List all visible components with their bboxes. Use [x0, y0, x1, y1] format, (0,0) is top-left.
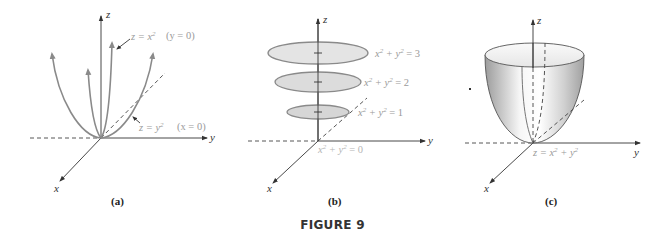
- x-axis-label: x: [267, 183, 272, 194]
- rhs: = 1: [387, 107, 403, 118]
- equation-z-x2: z = x2: [131, 31, 156, 43]
- caption-b: (b): [328, 196, 341, 207]
- rhs: = 0: [347, 144, 363, 155]
- figure-title: FIGURE 9: [0, 218, 665, 232]
- stray-dot: [469, 88, 471, 90]
- condition-y0: (y = 0): [166, 31, 195, 42]
- term-y: + y: [326, 144, 343, 155]
- term-y: + y: [372, 77, 389, 88]
- exp: 2: [575, 146, 579, 154]
- surface-equation: z = x2 + y2: [533, 147, 578, 159]
- z-axis-label: z: [537, 15, 541, 26]
- x-axis: [273, 141, 318, 183]
- level-label-3: x2 + y2 = 3: [375, 48, 420, 60]
- y-axis-label: y: [634, 147, 639, 158]
- z-axis-label: z: [323, 14, 327, 25]
- level-label-1: x2 + y2 = 1: [358, 107, 403, 119]
- x-axis: [60, 138, 101, 181]
- x-axis-label: x: [54, 183, 59, 194]
- term-y: + y: [383, 48, 400, 59]
- pointer-arrow-zx2: [117, 39, 130, 49]
- term-z-x: z = x: [533, 147, 554, 158]
- paraboloid-surface: [485, 55, 584, 143]
- parabola-inner-right: [101, 43, 112, 138]
- caption-a: (a): [111, 196, 124, 207]
- term-y: + y: [558, 147, 575, 158]
- panel-c: [465, 20, 640, 183]
- parabola-outer-left: [52, 54, 101, 138]
- level-label-2: x2 + y2 = 2: [364, 77, 409, 89]
- equation-text: z = x: [131, 31, 152, 42]
- rhs: = 2: [393, 77, 409, 88]
- y-axis-label: y: [428, 135, 433, 146]
- panel-b: [248, 19, 425, 183]
- x-axis-label: x: [484, 183, 489, 194]
- level-label-0: x2 + y2 = 0: [318, 144, 363, 156]
- rhs: = 3: [404, 48, 420, 59]
- equation-text: z = y: [139, 122, 160, 133]
- y-axis-label: y: [210, 132, 215, 143]
- term-y: + y: [366, 107, 383, 118]
- parabola-inner-left: [88, 70, 101, 138]
- paraboloid-rim: [485, 43, 584, 67]
- dashed-diagonal: [318, 98, 367, 141]
- exponent: 2: [152, 30, 156, 38]
- x-axis: [490, 143, 533, 183]
- equation-z-y2: z = y2: [139, 122, 164, 134]
- condition-x0: (x = 0): [177, 122, 206, 133]
- exponent: 2: [160, 121, 164, 129]
- z-axis-label: z: [106, 9, 110, 20]
- caption-c: (c): [545, 196, 557, 207]
